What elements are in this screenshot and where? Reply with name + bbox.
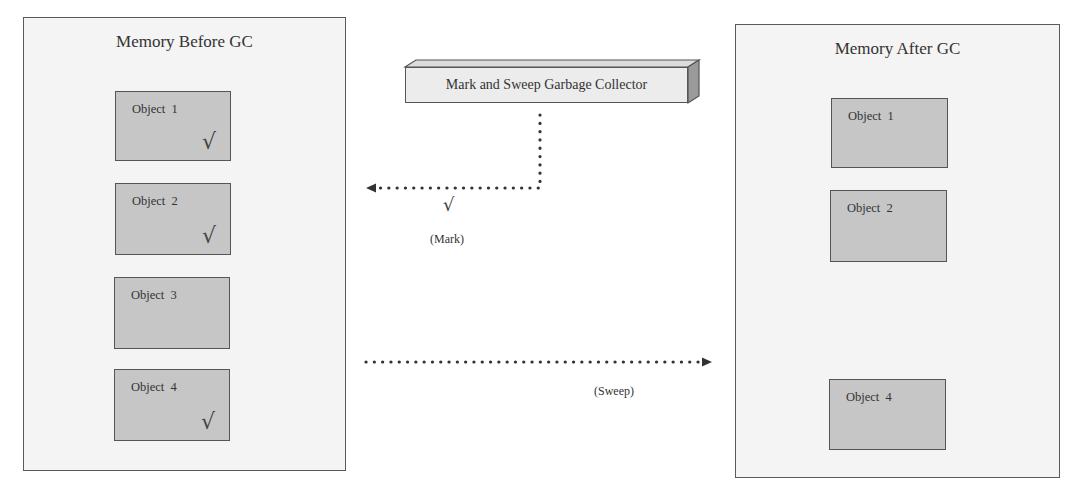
object-box: Object 2 √ [115, 183, 231, 255]
object-box: Object 1 √ [115, 91, 231, 161]
object-label: Object 3 [131, 288, 177, 303]
object-box: Object 1 [831, 98, 948, 168]
object-label: Object 1 [848, 109, 894, 124]
check-mark-icon: √ [202, 129, 216, 154]
object-box: Object 4 √ [114, 369, 230, 441]
mark-check-icon: √ [443, 194, 454, 215]
collector-label: Mark and Sweep Garbage Collector [406, 77, 687, 93]
object-label: Object 2 [132, 194, 178, 209]
object-label: Object 2 [847, 201, 893, 216]
mark-label: (Mark) [430, 232, 464, 247]
mark-arrow [366, 115, 540, 193]
object-box: Object 2 [830, 190, 947, 262]
garbage-collector-box: Mark and Sweep Garbage Collector [405, 67, 688, 103]
object-label: Object 4 [846, 390, 892, 405]
check-mark-icon: √ [202, 223, 216, 248]
sweep-arrow [366, 358, 712, 367]
sweep-label: (Sweep) [594, 384, 634, 399]
object-label: Object 1 [132, 102, 178, 117]
panel-title: Memory After GC [736, 39, 1059, 59]
object-box: Object 3 [114, 277, 230, 349]
panel-title: Memory Before GC [24, 32, 345, 52]
object-box: Object 4 [829, 379, 946, 450]
check-mark-icon: √ [201, 409, 215, 434]
object-label: Object 4 [131, 380, 177, 395]
